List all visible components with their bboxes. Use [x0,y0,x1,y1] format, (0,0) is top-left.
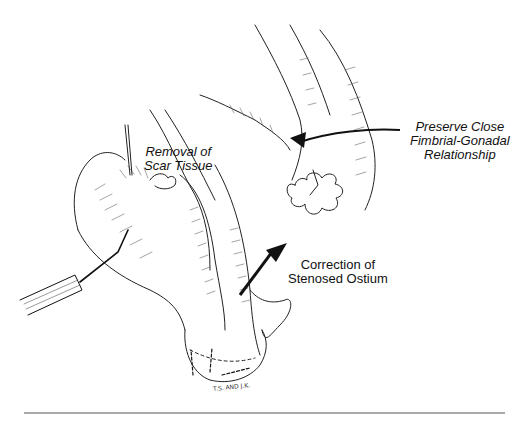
ostium-arrow [240,252,272,295]
label-line: Preserve Close [410,120,510,134]
fimbria-frond [287,173,343,214]
label-line: Relationship [410,148,510,162]
ampulla-end [185,330,266,382]
fimbria-outline [255,25,302,180]
label-line: Removal of [144,145,213,159]
label-ostium-correction: Correction of Stenosed Ostium [288,258,388,286]
tube-outline-left [74,153,125,231]
label-line: Fimbrial-Gonadal [410,134,510,148]
needle-holder [20,230,128,315]
surgical-illustration [0,0,527,438]
ostium-arrow-head [266,243,287,262]
label-line: Stenosed Ostium [288,272,388,286]
scar-tissue [150,174,176,189]
label-line: Scar Tissue [144,159,213,173]
label-line: Correction of [288,258,388,272]
label-fimbrial-relationship: Preserve Close Fimbrial-Gonadal Relation… [410,120,510,162]
dashed-arrow-3 [222,368,250,375]
fimbria-arrow [300,130,400,143]
forceps [125,125,132,175]
fimbria-arrow-head [290,132,306,148]
dashed-arrow-2 [210,348,212,372]
label-scar-removal: Removal of Scar Tissue [144,145,213,173]
